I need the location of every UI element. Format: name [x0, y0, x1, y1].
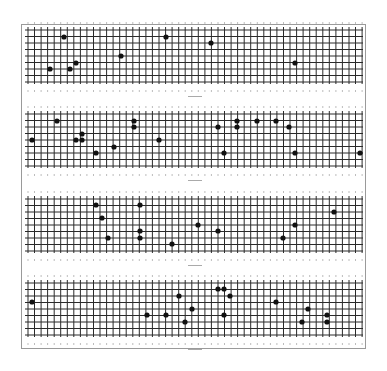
tick-mark — [106, 90, 107, 92]
tick-mark — [349, 343, 350, 345]
tick-mark — [132, 343, 133, 345]
tick-mark — [250, 106, 251, 108]
tick-mark — [191, 22, 192, 24]
tick-mark — [47, 174, 48, 176]
tick-mark — [263, 275, 264, 277]
tick-mark — [329, 106, 330, 108]
tick-mark — [218, 343, 219, 345]
tick-mark — [283, 90, 284, 92]
tick-mark — [106, 106, 107, 108]
tick-mark — [86, 343, 87, 345]
tick-mark — [113, 191, 114, 193]
data-point — [54, 118, 59, 123]
tick-mark — [152, 343, 153, 345]
tick-mark — [28, 90, 29, 92]
tick-mark — [204, 22, 205, 24]
tick-mark — [67, 191, 68, 193]
tick-mark — [191, 106, 192, 108]
tick-mark — [67, 22, 68, 24]
tick-mark — [126, 174, 127, 176]
tick-mark — [34, 259, 35, 261]
tick-mark — [139, 90, 140, 92]
data-point — [73, 137, 78, 142]
tick-mark — [165, 174, 166, 176]
tick-mark — [309, 106, 310, 108]
tick-mark — [60, 191, 61, 193]
tick-mark — [34, 275, 35, 277]
tick-mark — [303, 22, 304, 24]
tick-mark — [355, 22, 356, 24]
data-point — [163, 34, 168, 39]
data-point — [221, 312, 226, 317]
tick-mark — [113, 259, 114, 261]
tick-mark — [152, 174, 153, 176]
tick-mark — [198, 22, 199, 24]
tick-mark — [342, 191, 343, 193]
tick-mark — [191, 259, 192, 261]
tick-mark — [172, 174, 173, 176]
tick-mark — [145, 259, 146, 261]
tick-mark — [342, 22, 343, 24]
tick-mark — [100, 22, 101, 24]
tick-mark — [322, 22, 323, 24]
tick-mark — [309, 174, 310, 176]
data-point — [221, 150, 226, 155]
tick-mark — [47, 90, 48, 92]
tick-mark — [60, 343, 61, 345]
tick-mark — [224, 174, 225, 176]
tick-mark — [257, 343, 258, 345]
tick-mark — [54, 275, 55, 277]
tick-mark — [191, 275, 192, 277]
tick-mark — [237, 106, 238, 108]
tick-mark — [54, 22, 55, 24]
tick-mark — [211, 259, 212, 261]
tick-mark — [100, 275, 101, 277]
tick-mark — [329, 90, 330, 92]
tick-mark — [41, 106, 42, 108]
data-point — [61, 34, 66, 39]
tick-mark — [100, 90, 101, 92]
tick-mark — [159, 106, 160, 108]
tick-mark — [178, 191, 179, 193]
tick-mark — [296, 174, 297, 176]
tick-mark — [342, 275, 343, 277]
data-point — [163, 312, 168, 317]
tick-mark — [172, 191, 173, 193]
tick-mark — [60, 90, 61, 92]
tick-mark — [34, 191, 35, 193]
tick-mark — [80, 275, 81, 277]
tick-mark — [132, 275, 133, 277]
data-point — [131, 124, 136, 129]
tick-mark — [54, 259, 55, 261]
tick-mark — [106, 22, 107, 24]
tick-mark — [139, 343, 140, 345]
tick-mark — [139, 174, 140, 176]
tick-mark — [145, 191, 146, 193]
tick-mark — [159, 174, 160, 176]
tick-mark — [28, 174, 29, 176]
tick-mark — [316, 174, 317, 176]
tick-mark — [303, 174, 304, 176]
data-point — [93, 150, 98, 155]
tick-mark — [113, 106, 114, 108]
tick-mark — [119, 343, 120, 345]
data-point — [292, 222, 297, 227]
tick-mark — [218, 275, 219, 277]
tick-mark — [250, 22, 251, 24]
tick-mark — [250, 343, 251, 345]
tick-mark — [290, 259, 291, 261]
tick-mark — [349, 90, 350, 92]
tick-mark — [335, 22, 336, 24]
tick-mark — [80, 90, 81, 92]
tick-mark — [185, 275, 186, 277]
tick-mark — [106, 259, 107, 261]
tick-mark — [257, 174, 258, 176]
tick-mark — [204, 275, 205, 277]
data-point — [47, 66, 52, 71]
tick-mark — [80, 259, 81, 261]
data-point — [305, 306, 310, 311]
tick-mark — [80, 22, 81, 24]
data-point — [144, 312, 149, 317]
tick-mark — [119, 191, 120, 193]
tick-mark — [237, 191, 238, 193]
